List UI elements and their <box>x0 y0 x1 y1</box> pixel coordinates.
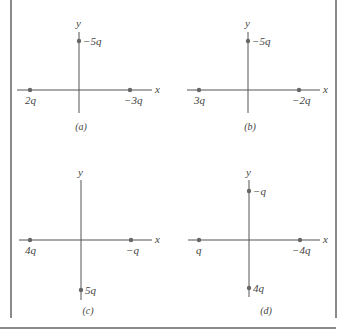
y-axis-label: y <box>75 17 81 29</box>
panel-a: x y 2q −3q −5q (a) <box>17 17 160 133</box>
y-axis-label: y <box>77 166 83 178</box>
charge-dot <box>197 88 201 92</box>
panel-c: x y 4q −q 5q (c) <box>19 166 160 317</box>
panel-d: x y q −4q −q 4q (d) <box>188 166 328 317</box>
charge-dot <box>197 238 201 242</box>
panel-caption: (b) <box>244 121 256 133</box>
charge-label: 2q <box>25 94 37 106</box>
charge-dot <box>77 39 81 43</box>
charge-label: −q <box>253 185 266 197</box>
charge-label: q <box>196 244 202 256</box>
charge-dot <box>246 39 250 43</box>
charge-dot <box>28 88 32 92</box>
charge-label: −2q <box>292 94 311 106</box>
charge-label: 4q <box>25 244 37 256</box>
y-axis-label: y <box>245 166 251 178</box>
x-axis-label: x <box>322 83 328 95</box>
charge-dot <box>28 238 32 242</box>
charge-label: 5q <box>85 284 97 296</box>
charge-dot <box>79 288 83 292</box>
x-axis-label: x <box>154 83 160 95</box>
charge-label: −5q <box>252 35 271 47</box>
panel-caption: (d) <box>260 305 272 317</box>
charge-dot <box>247 286 251 290</box>
charge-label: −q <box>126 244 139 256</box>
charge-label: −5q <box>83 35 102 47</box>
charge-dot <box>297 88 301 92</box>
charge-dot <box>247 189 251 193</box>
panel-caption: (c) <box>82 305 94 317</box>
charge-dot <box>128 88 132 92</box>
charge-dot <box>129 238 133 242</box>
charge-label: −4q <box>292 244 311 256</box>
charge-diagram: x y 2q −3q −5q (a) x y 3q −2q −5q (b) x … <box>0 0 349 335</box>
charge-label: −3q <box>124 94 143 106</box>
charge-label: 4q <box>253 282 265 294</box>
panel-b: x y 3q −2q −5q (b) <box>187 17 328 133</box>
x-axis-label: x <box>154 233 160 245</box>
y-axis-label: y <box>244 17 250 29</box>
panel-caption: (a) <box>75 121 87 133</box>
charge-label: 3q <box>193 94 206 106</box>
x-axis-label: x <box>322 233 328 245</box>
charge-dot <box>298 238 302 242</box>
